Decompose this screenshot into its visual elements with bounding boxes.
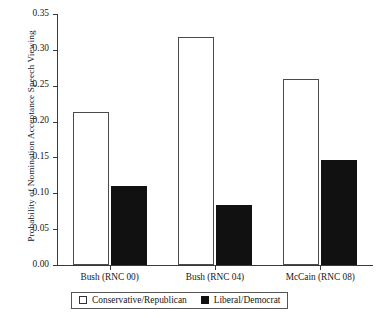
x-tick-label: McCain (RNC 08): [268, 272, 373, 282]
y-tick: 0.10: [53, 193, 57, 194]
y-tick-label: 0.05: [33, 223, 49, 233]
chart-legend: Conservative/RepublicanLiberal/Democrat: [71, 292, 288, 309]
y-tick: 0.30: [53, 50, 57, 51]
bar-conservative-republican: [178, 37, 214, 265]
legend-label: Conservative/Republican: [92, 295, 187, 305]
y-tick: 0.15: [53, 157, 57, 158]
x-tick: [215, 265, 216, 270]
bar-chart-figure: Probability of Nomination Acceptance Spe…: [0, 0, 390, 318]
y-tick: 0.05: [53, 229, 57, 230]
y-tick: 0.00: [53, 265, 57, 266]
x-tick: [110, 265, 111, 270]
bar-liberal-democrat: [321, 160, 357, 265]
y-tick: 0.25: [53, 86, 57, 87]
bar-liberal-democrat: [111, 186, 147, 265]
y-tick-label: 0.20: [33, 115, 49, 125]
legend-item: Liberal/Democrat: [201, 295, 281, 305]
y-tick-label: 0.35: [33, 8, 49, 18]
y-tick-label: 0.25: [33, 79, 49, 89]
x-tick-label: Bush (RNC 04): [162, 272, 267, 282]
y-tick: 0.35: [53, 14, 57, 15]
bar-conservative-republican: [73, 112, 109, 265]
x-tick-label: Bush (RNC 00): [57, 272, 162, 282]
bar-conservative-republican: [283, 79, 319, 265]
x-tick: [320, 265, 321, 270]
y-tick: 0.20: [53, 122, 57, 123]
y-tick-label: 0.15: [33, 151, 49, 161]
y-axis-line: [57, 14, 58, 266]
legend-label: Liberal/Democrat: [214, 295, 281, 305]
plot-area: 0.000.050.100.150.200.250.300.35 Bush (R…: [57, 14, 373, 265]
bar-liberal-democrat: [216, 205, 252, 265]
y-tick-label: 0.10: [33, 187, 49, 197]
y-tick-label: 0.30: [33, 43, 49, 53]
y-tick-label: 0.00: [33, 259, 49, 269]
open-square-icon: [79, 296, 87, 304]
legend-item: Conservative/Republican: [79, 295, 187, 305]
filled-square-icon: [201, 296, 209, 304]
